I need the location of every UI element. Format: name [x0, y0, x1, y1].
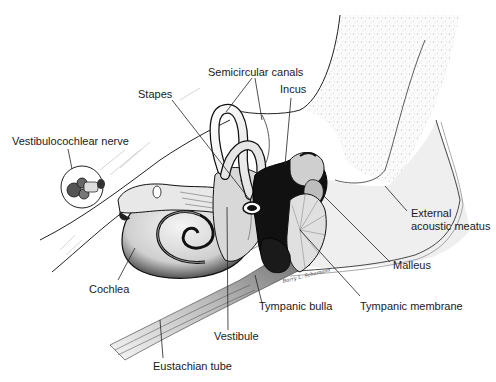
label-semicircular-canals: Semicircular canals [208, 66, 304, 78]
label-malleus: Malleus [393, 259, 431, 271]
label-vestibulocochlear-nerve: Vestibulocochlear nerve [12, 135, 129, 147]
label-cochlea: Cochlea [89, 283, 130, 295]
label-external-acoustic-meatus-line2: acoustic meatus [411, 220, 491, 232]
vestibulocochlear-nerve [61, 166, 105, 208]
label-eustachian-tube: Eustachian tube [153, 360, 232, 372]
ear-anatomy-diagram: Barry L. Schumann Semicircular canals St… [0, 0, 496, 382]
label-external-acoustic-meatus-line1: External [411, 207, 451, 219]
label-vestibule: Vestibule [214, 330, 259, 342]
label-incus: Incus [280, 83, 307, 95]
label-tympanic-membrane: Tympanic membrane [360, 300, 463, 312]
incus [290, 153, 324, 187]
label-tympanic-bulla: Tympanic bulla [259, 300, 333, 312]
label-stapes: Stapes [138, 88, 173, 100]
